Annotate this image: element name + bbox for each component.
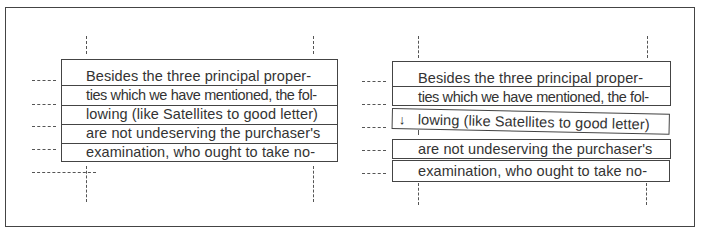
text-line-box: are not undeserving the purchaser's: [392, 139, 671, 159]
guide-vertical-left-top: [86, 36, 87, 54]
text-line: examination, who ought to take no-: [86, 143, 315, 161]
baseline-guide: [362, 104, 386, 105]
baseline-guide: [32, 126, 56, 127]
baseline-guide: [32, 104, 56, 105]
text-line-box: examination, who ought to take no-: [392, 160, 670, 182]
guide-vertical-right-top: [647, 36, 648, 58]
text-line: are not undeserving the purchaser's: [418, 140, 652, 158]
guide-tick: [418, 130, 419, 135]
text-line: are not undeserving the purchaser's: [86, 124, 320, 142]
guide-vertical-right-bottom: [313, 166, 314, 202]
baseline-guide: [362, 173, 386, 174]
text-line: ties which we have mentioned, the fol-: [86, 86, 317, 104]
text-line: examination, who ought to take no-: [418, 162, 647, 180]
guide-vertical-left-bottom: [418, 183, 419, 205]
baseline-guide: [362, 127, 386, 128]
text-line: Besides the three principal proper-: [86, 67, 311, 85]
text-line: lowing (like Satellites to good letter): [86, 105, 318, 123]
text-line: ties which we have mentioned, the fol-: [418, 88, 649, 106]
baseline-guide: [32, 80, 56, 81]
guide-vertical-left-top: [418, 36, 419, 58]
baseline-guide: [362, 150, 386, 151]
baseline-guide: [362, 81, 386, 82]
text-line: Besides the three principal proper-: [418, 69, 643, 87]
guide-vertical-right-top: [313, 36, 314, 54]
down-arrow-icon: ↓: [399, 113, 406, 126]
text-line: lowing (like Satellites to good letter): [418, 111, 650, 134]
guide-vertical-right-bottom: [646, 183, 647, 205]
baseline-guide: [32, 149, 56, 150]
guide-vertical-left-bottom: [86, 166, 87, 202]
